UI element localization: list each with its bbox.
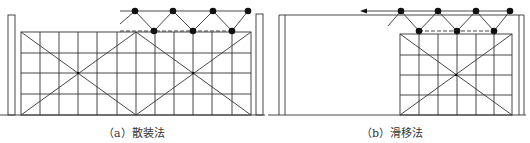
caption-figure-a: （a）散装法 [103,124,165,140]
construction-diagram [0,0,530,143]
figure-b-drawing [268,11,526,115]
truss-a [120,11,250,31]
truss-b-nodes [398,8,514,77]
arrow-left-icon [360,9,367,14]
left-column [8,15,15,115]
caption-figure-b: （b）滑移法 [361,124,423,140]
truss-b [362,11,510,31]
figure-a-drawing [0,11,265,115]
right-column [256,14,263,115]
grid-structure [21,32,251,115]
truss-a-nodes [77,8,252,75]
